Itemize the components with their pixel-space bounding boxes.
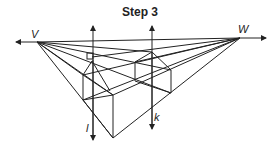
label-k: k	[154, 111, 160, 123]
label-l: l	[86, 122, 89, 134]
perspective-diagram: V W l k	[0, 0, 280, 145]
vanishing-line-v	[37, 42, 152, 52]
horizon-line	[37, 38, 240, 42]
label-w: W	[238, 23, 250, 35]
box-edge	[83, 95, 113, 100]
label-v: V	[31, 28, 40, 40]
